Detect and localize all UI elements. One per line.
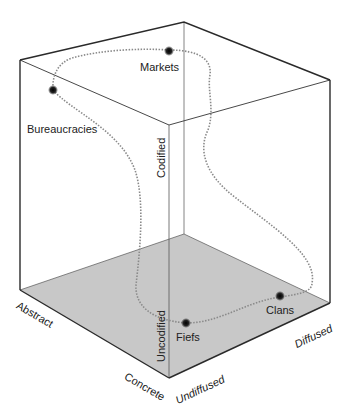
codified-axis-label: Codified <box>156 138 167 178</box>
clans-node <box>275 291 285 301</box>
markets-node <box>164 46 174 56</box>
clans-label: Clans <box>266 305 294 316</box>
uncodified-axis-label: Uncodified <box>156 310 167 362</box>
fiefs-node <box>181 318 191 328</box>
markets-label: Markets <box>140 62 179 73</box>
fiefs-label: Fiefs <box>176 332 200 343</box>
bureaucracies-label: Bureaucracies <box>27 124 97 135</box>
top-inner-right-edge <box>169 80 330 125</box>
bureaucracies-node <box>48 85 58 95</box>
